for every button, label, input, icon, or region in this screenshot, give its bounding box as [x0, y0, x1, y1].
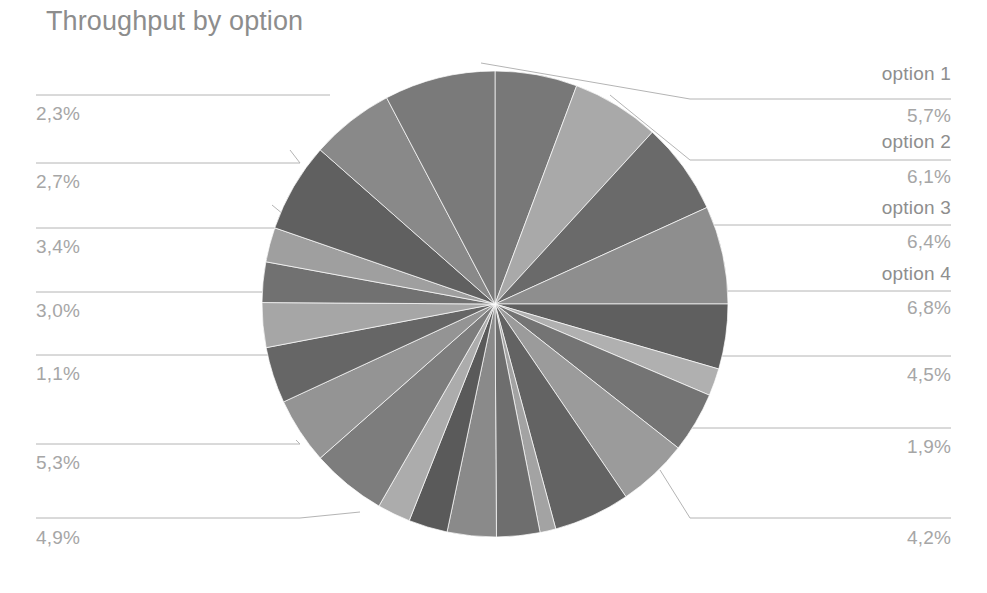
callout-value: 4,9%	[36, 527, 80, 549]
callout-value: 3,0%	[36, 300, 80, 322]
leader-line	[36, 150, 300, 163]
leader-line	[660, 470, 951, 518]
callout-value: 1,9%	[907, 436, 951, 458]
callout-value: 6,1%	[907, 166, 951, 188]
callout-series-name: option 3	[882, 197, 951, 219]
leader-line	[36, 512, 360, 518]
pie-chart-svg	[0, 0, 987, 593]
callout-value: 3,4%	[36, 236, 80, 258]
callout-series-name: option 2	[882, 131, 951, 153]
callout-value: 4,2%	[907, 527, 951, 549]
callout-value: 2,3%	[36, 103, 80, 125]
callout-value: 2,7%	[36, 171, 80, 193]
leader-line	[36, 440, 300, 444]
callout-value: 6,8%	[907, 297, 951, 319]
callout-value: 6,4%	[907, 231, 951, 253]
callout-value: 4,5%	[907, 364, 951, 386]
leader-line	[36, 318, 300, 355]
callout-value: 5,3%	[36, 452, 80, 474]
leader-line	[36, 205, 300, 228]
callout-value: 1,1%	[36, 363, 80, 385]
leader-line	[36, 258, 300, 292]
pie-slice-group	[262, 71, 728, 537]
callout-series-name: option 4	[882, 263, 951, 285]
callout-value: 5,7%	[907, 105, 951, 127]
callout-series-name: option 1	[882, 63, 951, 85]
chart-canvas: Throughput by option option 15,7%option …	[0, 0, 987, 593]
